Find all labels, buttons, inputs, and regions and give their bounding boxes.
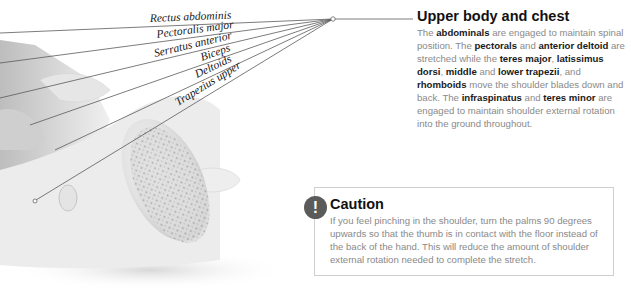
body-text: The (417, 27, 436, 38)
body-text: , and (559, 66, 580, 77)
exclamation-icon: ! (304, 196, 327, 219)
caution-text: If you feel pinching in the shoulder, tu… (330, 214, 612, 266)
muscle-term: teres major (500, 53, 552, 64)
muscle-term: middle (446, 66, 477, 77)
figure (0, 40, 290, 290)
body-text: and (477, 66, 498, 77)
muscle-term: lower trapezii (498, 66, 559, 77)
section-title: Upper body and chest (417, 8, 627, 25)
muscle-term: rhomboids (417, 79, 467, 90)
muscle-term: abdominals (436, 27, 489, 38)
convergence-point (331, 17, 335, 21)
body-text: and (522, 92, 543, 103)
body-text: and (517, 40, 538, 51)
muscle-term: pectorals (474, 40, 517, 51)
section-body: The abdominals are engaged to maintain s… (417, 26, 627, 130)
muscle-term: teres minor (543, 92, 595, 103)
trapezius-point (33, 199, 37, 203)
upper-body-section: Upper body and chest The abdominals are … (417, 8, 627, 130)
muscle-term: anterior deltoid (538, 40, 608, 51)
caution-title: Caution (330, 196, 384, 213)
muscle-term: infraspinatus (462, 92, 522, 103)
